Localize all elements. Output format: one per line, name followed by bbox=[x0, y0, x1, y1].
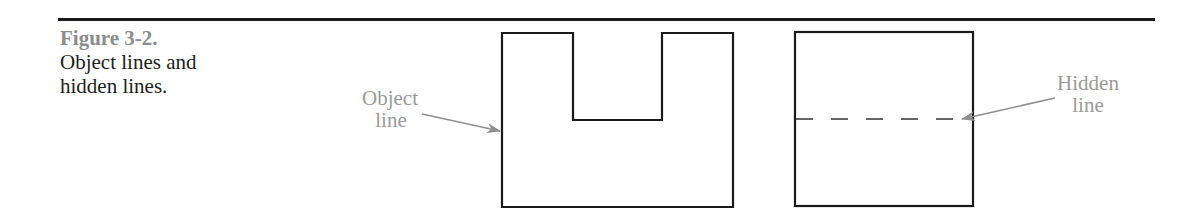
right-view: Hidden line bbox=[795, 32, 1119, 206]
object-label-line-1: Object bbox=[362, 86, 418, 110]
object-outline bbox=[502, 33, 733, 207]
left-view: Object line bbox=[362, 33, 733, 207]
object-callout-arrow-icon bbox=[422, 114, 500, 131]
hidden-label-line-1: Hidden bbox=[1057, 71, 1119, 95]
diagram: Object line Hidden line bbox=[0, 0, 1192, 220]
hidden-callout-arrow-icon bbox=[962, 98, 1055, 119]
hidden-label-line-2: line bbox=[1072, 93, 1104, 117]
object-label-line-2: line bbox=[375, 108, 407, 132]
